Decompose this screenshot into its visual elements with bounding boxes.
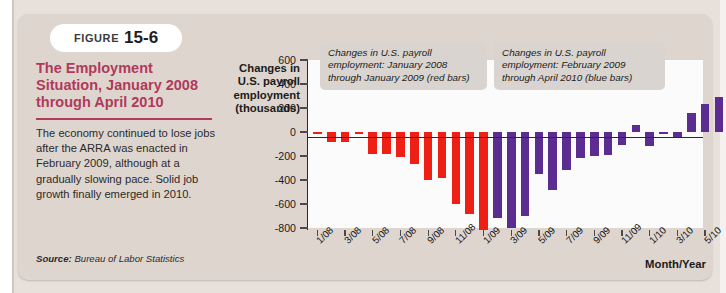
chart-bar [590, 132, 599, 156]
chart-bar [493, 132, 502, 218]
chart-bar [452, 132, 461, 204]
chart-bar [645, 132, 654, 146]
chart-bar [687, 113, 696, 132]
y-tick [300, 155, 308, 156]
source-label: Source: [36, 253, 72, 264]
chart-bar [604, 132, 613, 155]
y-tick-label: -400 [252, 174, 296, 186]
chart-bar [465, 132, 474, 214]
y-tick [300, 227, 308, 228]
figure-card: FIGURE 15-6 The Employment Situation, Ja… [18, 14, 712, 280]
figure-text-column: FIGURE 15-6 The Employment Situation, Ja… [26, 20, 222, 274]
chart-bar [438, 132, 447, 178]
x-axis-title: Month/Year [645, 258, 706, 270]
figure-caption: The economy continued to lose jobs after… [36, 126, 216, 202]
callout-red-bars: Changes in U.S. payroll employment: Janu… [320, 42, 487, 90]
source-text: Bureau of Labor Statistics [72, 253, 185, 264]
page-margin-right [720, 0, 726, 293]
chart-area: Changes in U.S. payroll employment (thou… [222, 20, 708, 274]
zero-baseline [307, 137, 703, 138]
y-tick-label: 200 [252, 102, 296, 114]
y-tick [300, 83, 308, 84]
y-tick-label: 600 [252, 54, 296, 66]
chart-bar [479, 132, 488, 230]
y-tick-label: 400 [252, 78, 296, 90]
chart-bar [715, 97, 724, 132]
chart-bar [313, 132, 322, 134]
y-tick [300, 203, 308, 204]
title-divider [36, 118, 212, 120]
chart-bar [382, 132, 391, 154]
figure-source: Source: Bureau of Labor Statistics [36, 253, 226, 264]
chart-bar [535, 132, 544, 174]
figure-label: FIGURE [74, 32, 119, 44]
chart-bar [576, 132, 585, 158]
y-tick-label: 0 [252, 126, 296, 138]
callout-blue-bars: Changes in U.S. payroll employment: Febr… [494, 42, 665, 90]
y-tick [300, 59, 308, 60]
chart-bar [632, 125, 641, 132]
chart-bar [396, 132, 405, 157]
page-margin-rule [12, 0, 14, 293]
chart-bar [618, 132, 627, 145]
y-tick [300, 107, 308, 108]
y-tick-label: -200 [252, 150, 296, 162]
chart-bar [355, 132, 364, 134]
chart-bar [368, 132, 377, 154]
y-tick-label: -600 [252, 198, 296, 210]
y-tick [300, 131, 308, 132]
figure-number: 15-6 [124, 28, 158, 48]
figure-title: The Employment Situation, January 2008 t… [36, 60, 218, 111]
chart-bar [701, 104, 710, 132]
figure-number-badge: FIGURE 15-6 [50, 24, 182, 52]
chart-bar [659, 132, 668, 134]
y-tick [300, 179, 308, 180]
chart-bar [424, 132, 433, 180]
chart-bar [548, 132, 557, 190]
chart-bar [521, 132, 530, 216]
chart-bar [507, 132, 516, 228]
y-tick-label: -800 [252, 222, 296, 234]
page-margin-left [0, 0, 12, 293]
figure-container: FIGURE 15-6 The Employment Situation, Ja… [0, 0, 726, 293]
